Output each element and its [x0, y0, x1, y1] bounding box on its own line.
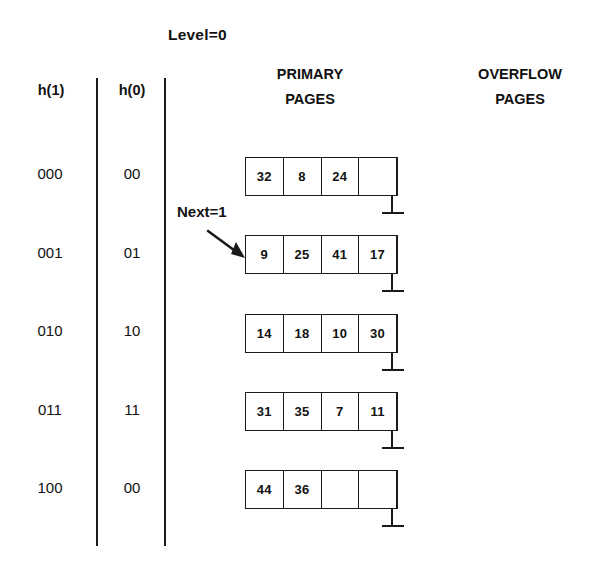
- h1-value: 010: [20, 322, 80, 339]
- next-pointer-arrow-icon: [205, 228, 249, 262]
- primary-header-line-2: PAGES: [230, 87, 390, 112]
- end-of-chain-bar: [382, 212, 404, 214]
- primary-page: 4436: [245, 470, 398, 509]
- h1-value: 001: [20, 244, 80, 261]
- page-slot: 32: [246, 158, 284, 195]
- end-of-chain-marker-icon: [391, 508, 415, 530]
- end-of-chain-marker-icon: [391, 273, 415, 295]
- primary-page: 9254117: [245, 235, 398, 274]
- h0-value: 01: [102, 244, 162, 261]
- primary-header-line-1: PRIMARY: [230, 62, 390, 87]
- h1-value: 000: [20, 165, 80, 182]
- page-slot: 10: [322, 315, 360, 352]
- h0-value: 10: [102, 322, 162, 339]
- overflow-header-line-1: OVERFLOW: [440, 62, 600, 87]
- end-of-chain-stem: [391, 195, 393, 213]
- h0-value: 11: [102, 401, 162, 418]
- page-slot: 7: [322, 393, 360, 430]
- page-slot: 24: [322, 158, 360, 195]
- page-slot: 8: [284, 158, 322, 195]
- column-header-h0: h(0): [107, 78, 157, 103]
- bucket-row: 14181030: [245, 314, 398, 353]
- page-slot: 41: [322, 236, 360, 273]
- vertical-divider-right: [164, 78, 166, 546]
- end-of-chain-bar: [382, 290, 404, 292]
- page-slot-empty: [359, 471, 397, 508]
- bucket-row: 32824: [245, 157, 398, 196]
- next-pointer-label: Next=1: [177, 203, 227, 220]
- end-of-chain-stem: [391, 352, 393, 370]
- linear-hashing-diagram: Level=0 h(1) h(0) PRIMARY PAGES OVERFLOW…: [0, 0, 604, 574]
- column-header-overflow-pages: OVERFLOW PAGES: [440, 62, 600, 112]
- level-label: Level=0: [168, 26, 227, 44]
- bucket-row: 3135711: [245, 392, 398, 431]
- primary-page: 3135711: [245, 392, 398, 431]
- end-of-chain-stem: [391, 273, 393, 291]
- end-of-chain-bar: [382, 447, 404, 449]
- page-slot: 17: [359, 236, 397, 273]
- end-of-chain-bar: [382, 369, 404, 371]
- end-of-chain-bar: [382, 525, 404, 527]
- end-of-chain-stem: [391, 508, 393, 526]
- h0-value: 00: [102, 165, 162, 182]
- page-slot: 35: [284, 393, 322, 430]
- column-header-h1: h(1): [26, 78, 76, 103]
- end-of-chain-marker-icon: [391, 430, 415, 452]
- vertical-divider-left: [96, 78, 98, 546]
- page-slot-empty: [322, 471, 360, 508]
- page-slot: 11: [359, 393, 397, 430]
- page-slot: 36: [284, 471, 322, 508]
- primary-page: 32824: [245, 157, 398, 196]
- h1-value: 100: [20, 479, 80, 496]
- bucket-row: 9254117: [245, 235, 398, 274]
- end-of-chain-marker-icon: [391, 195, 415, 217]
- page-slot: 31: [246, 393, 284, 430]
- page-slot: 30: [359, 315, 397, 352]
- h1-value: 011: [20, 401, 80, 418]
- primary-page: 14181030: [245, 314, 398, 353]
- bucket-row: 4436: [245, 470, 398, 509]
- h0-value: 00: [102, 479, 162, 496]
- page-slot: 44: [246, 471, 284, 508]
- end-of-chain-stem: [391, 430, 393, 448]
- overflow-header-line-2: PAGES: [440, 87, 600, 112]
- page-slot-empty: [359, 158, 397, 195]
- column-header-primary-pages: PRIMARY PAGES: [230, 62, 390, 112]
- end-of-chain-marker-icon: [391, 352, 415, 374]
- page-slot: 9: [246, 236, 284, 273]
- page-slot: 14: [246, 315, 284, 352]
- page-slot: 18: [284, 315, 322, 352]
- page-slot: 25: [284, 236, 322, 273]
